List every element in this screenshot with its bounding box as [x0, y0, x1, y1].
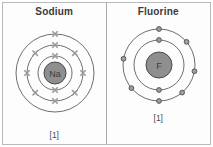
electron-shell2-6 [33, 90, 38, 95]
electron-shell2-4 [179, 90, 184, 95]
panel-sodium: Sodium Na [1] [3, 3, 107, 144]
panel-title-sodium: Sodium [3, 6, 106, 17]
electron-shell2-1 [156, 27, 161, 32]
electron-shell2-2 [184, 39, 189, 44]
electron-shell2-4 [72, 90, 77, 95]
electron-shell1-1 [156, 38, 161, 43]
electron-shell2-5 [156, 99, 161, 104]
panel-fluorine: Fluorine F [1] [107, 3, 211, 144]
electron-shell2-8 [33, 51, 38, 56]
nucleus-symbol: Na [49, 69, 61, 79]
reference-label-sodium: [1] [3, 130, 106, 140]
reference-label-fluorine: [1] [107, 113, 211, 123]
atomic-structure-figure: Sodium Na [1] Fluorine F [1] [0, 0, 213, 147]
sodium-atom-diagram: Na [7, 19, 103, 127]
panel-title-fluorine: Fluorine [107, 6, 211, 17]
nucleus-symbol: F [156, 61, 162, 71]
fluorine-atom-diagram: F [115, 21, 203, 109]
electron-shell2-2 [72, 51, 77, 56]
figure-frame: Sodium Na [1] Fluorine F [1] [2, 2, 211, 145]
electron-shell1-2 [156, 88, 161, 93]
electron-shell2-7 [121, 56, 126, 61]
electron-shell2-6 [129, 86, 134, 91]
electron-shell2-3 [192, 69, 197, 74]
